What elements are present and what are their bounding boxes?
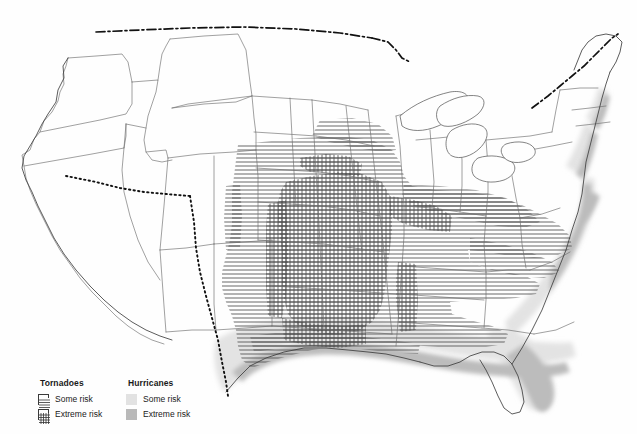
legend-label-tornado-some-risk: Some risk [55, 394, 93, 404]
swatch-tornado-some-risk [38, 394, 49, 405]
legend-group-hurricanes: Hurricanes Some risk Extreme risk [126, 378, 190, 422]
legend-group-tornadoes: Tornadoes Some risk [38, 378, 102, 422]
legend-item-hurricane-extreme-risk: Extreme risk [126, 407, 190, 421]
legend-item-tornado-extreme-risk: Extreme risk [38, 407, 102, 421]
swatch-tornado-extreme-risk [38, 409, 49, 420]
legend-label-hurricane-some-risk: Some risk [143, 394, 181, 404]
legend-title-tornadoes: Tornadoes [40, 378, 102, 388]
legend: Tornadoes Some risk [38, 378, 258, 430]
us-risk-map [0, 0, 637, 434]
legend-label-hurricane-extreme-risk: Extreme risk [143, 409, 190, 419]
legend-title-hurricanes: Hurricanes [128, 378, 190, 388]
legend-item-hurricane-some-risk: Some risk [126, 392, 190, 406]
legend-label-tornado-extreme-risk: Extreme risk [55, 409, 102, 419]
swatch-hurricane-extreme-risk [126, 409, 137, 420]
legend-item-tornado-some-risk: Some risk [38, 392, 102, 406]
swatch-hurricane-some-risk [126, 394, 137, 405]
map-figure: Tornadoes Some risk [0, 0, 637, 434]
